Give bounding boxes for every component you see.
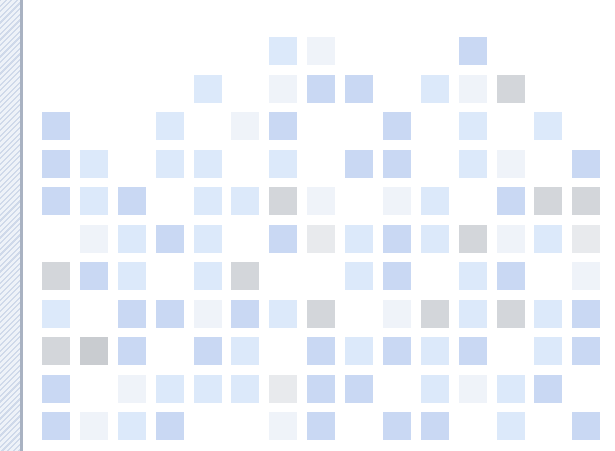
mosaic-tile xyxy=(421,375,449,403)
mosaic-tile xyxy=(572,262,600,290)
mosaic-tile xyxy=(156,412,184,440)
mosaic-tile xyxy=(459,262,487,290)
mosaic-tile xyxy=(269,225,297,253)
mosaic-tile xyxy=(42,262,70,290)
mosaic-tile xyxy=(421,75,449,103)
mosaic-tile xyxy=(307,337,335,365)
mosaic-tile xyxy=(572,225,600,253)
mosaic-tile xyxy=(194,300,222,328)
mosaic-tile xyxy=(497,225,525,253)
mosaic-tile xyxy=(307,187,335,215)
decorative-mosaic-canvas xyxy=(0,0,615,451)
mosaic-tile xyxy=(231,375,259,403)
mosaic-tile xyxy=(156,150,184,178)
mosaic-tile xyxy=(156,225,184,253)
mosaic-tile xyxy=(118,262,146,290)
mosaic-tile xyxy=(307,300,335,328)
mosaic-tile xyxy=(80,225,108,253)
mosaic-tile xyxy=(383,225,411,253)
mosaic-tile xyxy=(118,225,146,253)
mosaic-tile xyxy=(269,75,297,103)
mosaic-tile xyxy=(534,187,562,215)
mosaic-tile xyxy=(421,187,449,215)
mosaic-tile xyxy=(497,150,525,178)
mosaic-tile xyxy=(42,375,70,403)
mosaic-tile xyxy=(497,375,525,403)
mosaic-tile xyxy=(231,337,259,365)
mosaic-tile xyxy=(269,187,297,215)
mosaic-tile xyxy=(497,262,525,290)
mosaic-tile xyxy=(42,300,70,328)
mosaic-tile xyxy=(269,37,297,65)
mosaic-tile xyxy=(80,337,108,365)
mosaic-tile xyxy=(269,412,297,440)
mosaic-tile xyxy=(42,337,70,365)
mosaic-tile xyxy=(80,262,108,290)
mosaic-tile xyxy=(459,225,487,253)
mosaic-tile xyxy=(383,337,411,365)
mosaic-tile xyxy=(307,75,335,103)
mosaic-tile xyxy=(497,187,525,215)
mosaic-tile xyxy=(194,262,222,290)
mosaic-tile xyxy=(572,300,600,328)
mosaic-tile xyxy=(345,150,373,178)
mosaic-tile xyxy=(231,187,259,215)
mosaic-tile xyxy=(572,187,600,215)
mosaic-tile xyxy=(231,300,259,328)
mosaic-tile xyxy=(459,112,487,140)
mosaic-tile xyxy=(194,337,222,365)
mosaic-tile xyxy=(156,112,184,140)
mosaic-tile xyxy=(534,112,562,140)
mosaic-tile xyxy=(118,337,146,365)
mosaic-tile xyxy=(194,225,222,253)
mosaic-tile xyxy=(459,300,487,328)
mosaic-tile xyxy=(383,300,411,328)
mosaic-tile xyxy=(345,262,373,290)
mosaic-tile xyxy=(42,112,70,140)
mosaic-tile xyxy=(231,112,259,140)
mosaic-tile xyxy=(194,187,222,215)
mosaic-tile xyxy=(118,412,146,440)
mosaic-tile xyxy=(307,37,335,65)
mosaic-tile xyxy=(534,375,562,403)
mosaic-tile xyxy=(269,300,297,328)
mosaic-tile xyxy=(194,75,222,103)
mosaic-tile xyxy=(307,412,335,440)
mosaic-tile xyxy=(231,262,259,290)
mosaic-tile xyxy=(42,412,70,440)
mosaic-tile xyxy=(383,150,411,178)
mosaic-tile xyxy=(345,337,373,365)
mosaic-tile xyxy=(269,112,297,140)
mosaic-tile xyxy=(345,375,373,403)
mosaic-tile xyxy=(421,225,449,253)
mosaic-tile xyxy=(383,262,411,290)
mosaic-tile xyxy=(383,112,411,140)
mosaic-tile xyxy=(345,225,373,253)
mosaic-tile xyxy=(459,337,487,365)
mosaic-tile xyxy=(156,300,184,328)
mosaic-tile xyxy=(421,300,449,328)
mosaic-tile xyxy=(269,375,297,403)
mosaic-tile xyxy=(572,412,600,440)
mosaic-tile xyxy=(80,150,108,178)
mosaic-tile xyxy=(194,150,222,178)
mosaic-tile xyxy=(42,187,70,215)
mosaic-tile xyxy=(307,375,335,403)
mosaic-tile xyxy=(459,37,487,65)
mosaic-tile xyxy=(421,412,449,440)
mosaic-tile xyxy=(459,375,487,403)
mosaic-tile xyxy=(194,375,222,403)
mosaic-tile xyxy=(572,337,600,365)
mosaic-tile xyxy=(345,75,373,103)
mosaic-tile xyxy=(572,150,600,178)
mosaic-tile xyxy=(118,187,146,215)
mosaic-tile xyxy=(383,412,411,440)
mosaic-tile xyxy=(534,300,562,328)
mosaic-tile xyxy=(421,337,449,365)
mosaic-tile xyxy=(156,375,184,403)
square-tile-mosaic xyxy=(0,0,615,451)
mosaic-tile xyxy=(307,225,335,253)
mosaic-tile xyxy=(383,187,411,215)
mosaic-tile xyxy=(497,300,525,328)
mosaic-tile xyxy=(42,150,70,178)
